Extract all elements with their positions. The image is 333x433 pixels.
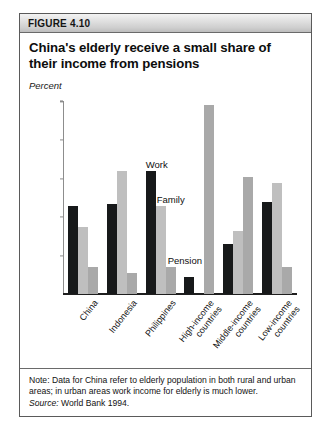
x-axis-label: Indonesia [107, 298, 139, 335]
x-axis-label-line: China [78, 298, 100, 323]
y-axis-unit-label: Percent [20, 72, 311, 91]
y-axis-tick-mark [60, 255, 64, 256]
figure-header-band: FIGURE 4.10 [20, 14, 311, 33]
figure-number-label: FIGURE 4.10 [28, 18, 90, 29]
x-axis-label-line: Indonesia [107, 298, 139, 335]
figure-source: Source: World Bank 1994. [29, 398, 301, 409]
source-prefix: Source: [29, 398, 59, 408]
bar-pension [127, 273, 137, 294]
bar-group [64, 101, 103, 294]
bar-group [219, 101, 258, 294]
figure-title: China's elderly receive a small share of… [20, 33, 311, 72]
bar-work [184, 277, 194, 294]
bar-pension [166, 267, 176, 294]
bar-pension [243, 177, 253, 295]
y-axis-tick-mark [60, 178, 64, 179]
x-axis-label: Philippines [143, 298, 178, 339]
series-annotation-family: Family [157, 194, 185, 205]
bar-work [107, 204, 117, 295]
bar-family [78, 227, 88, 295]
bar-family [272, 183, 282, 295]
y-axis-tick-mark [60, 139, 64, 140]
bar-work [262, 202, 272, 295]
bar-family [117, 171, 127, 295]
series-annotation-pension: Pension [168, 255, 202, 266]
bar-pension [88, 267, 98, 294]
source-text: World Bank 1994. [59, 398, 130, 408]
bar-work [68, 206, 78, 295]
series-annotation-work: Work [146, 159, 168, 170]
y-axis-tick-mark [60, 101, 64, 102]
bar-family [156, 206, 166, 295]
y-axis-tick-mark [60, 217, 64, 218]
bar-family [233, 231, 243, 295]
bar-group [103, 101, 142, 294]
figure-footer: Note: Data for China refer to elderly po… [20, 368, 311, 416]
bar-work [223, 244, 233, 294]
x-axis-label: China [78, 298, 100, 323]
bar-pension [204, 105, 214, 294]
bar-pension [282, 267, 292, 294]
bar-work [146, 171, 156, 295]
x-axis-label-line: Philippines [143, 298, 178, 339]
chart-plot-area: 020406080100ChinaIndonesiaPhilippinesHig… [20, 95, 311, 345]
x-axis-label: Low-incomecountries [256, 298, 302, 349]
figure-note: Note: Data for China refer to elderly po… [29, 375, 301, 398]
figure-container: FIGURE 4.10 China's elderly receive a sm… [19, 13, 312, 417]
bar-group [257, 101, 296, 294]
